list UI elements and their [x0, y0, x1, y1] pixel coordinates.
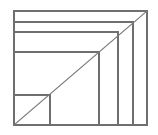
figure-container: Nested rectangles with diagonal — [0, 0, 158, 135]
diagonal-line — [14, 11, 147, 125]
geometric-figure — [0, 0, 158, 135]
